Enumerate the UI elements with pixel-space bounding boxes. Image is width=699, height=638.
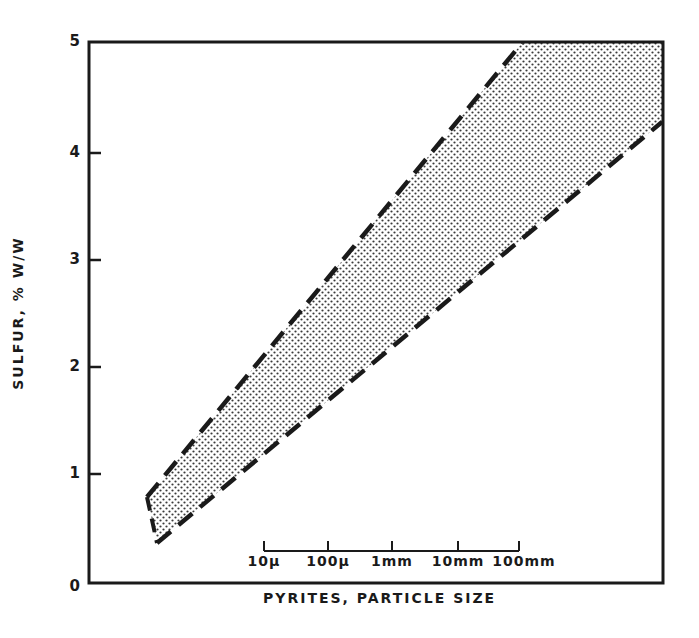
y-axis-ticks (89, 153, 101, 474)
y-tick-label-1: 1 (60, 464, 80, 482)
y-tick-label-5: 5 (60, 32, 80, 50)
y-tick-label-4: 4 (60, 143, 80, 161)
sulfur-band-area (147, 43, 662, 543)
particle-size-scale (264, 541, 519, 551)
size-label-100-micron: 100μ (306, 553, 350, 569)
y-tick-label-0: 0 (60, 577, 80, 595)
y-tick-label-2: 2 (60, 357, 80, 375)
chart-canvas (0, 0, 699, 638)
y-axis-label: SULFUR, % W/W (10, 236, 26, 389)
size-label-10mm: 10mm (432, 553, 485, 569)
size-label-10-micron: 10μ (248, 553, 281, 569)
y-tick-label-3: 3 (60, 250, 80, 268)
x-axis-label: PYRITES, PARTICLE SIZE (263, 590, 496, 606)
size-label-100mm: 100mm (492, 553, 555, 569)
size-label-1mm: 1mm (371, 553, 413, 569)
